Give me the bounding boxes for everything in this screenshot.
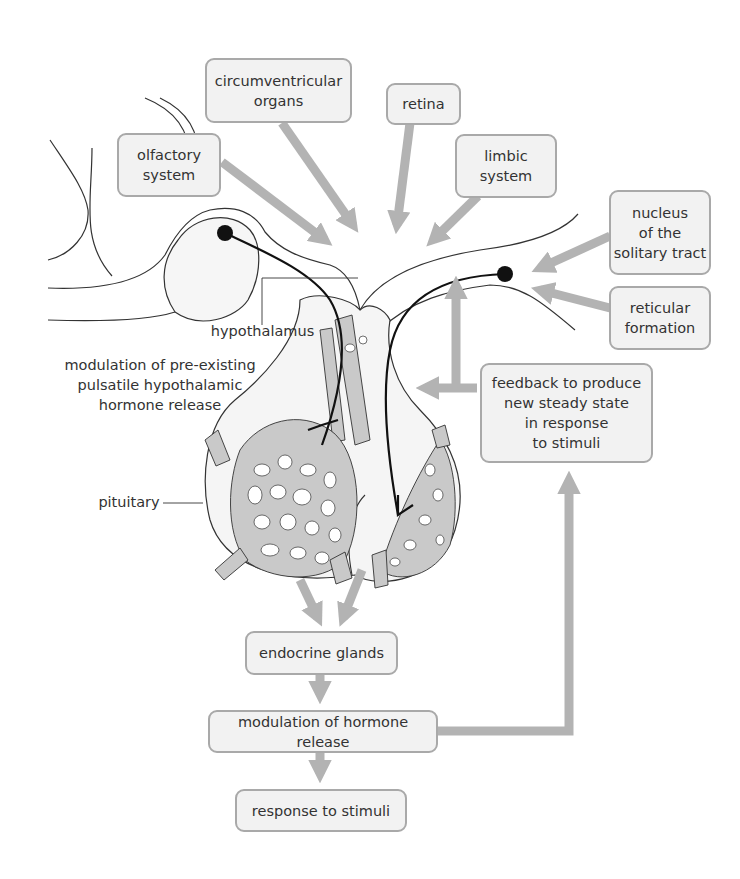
- feedback-box: feedback to produce new steady state in …: [480, 363, 653, 463]
- hypothalamus-label: hypothalamus: [210, 321, 315, 341]
- pituitary-label: pituitary: [96, 492, 162, 512]
- reticular-formation-box: reticular formation: [609, 286, 711, 350]
- nucleus-solitary-tract-box: nucleus of the solitary tract: [609, 190, 711, 275]
- circumventricular-organs-box: circumventricular organs: [205, 58, 352, 123]
- response-to-stimuli-box: response to stimuli: [235, 789, 407, 832]
- retina-box: retina: [386, 83, 461, 125]
- brainstem-tract: [360, 214, 578, 330]
- neuron-soma-right: [497, 266, 513, 282]
- neuron-soma-left: [217, 225, 233, 241]
- limbic-system-box: limbic system: [455, 134, 557, 198]
- olfactory-system-box: olfactory system: [117, 133, 221, 197]
- endocrine-glands-box: endocrine glands: [245, 631, 398, 675]
- modulation-pulsatile-label: modulation of pre-existing pulsatile hyp…: [60, 355, 260, 415]
- modulation-hormone-release-box: modulation of hormone release: [208, 710, 438, 753]
